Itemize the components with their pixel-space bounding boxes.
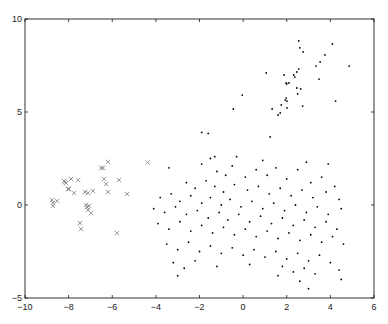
dot-marker: [329, 262, 331, 264]
dot-marker: [319, 254, 321, 256]
dot-marker: [262, 159, 264, 161]
dot-marker: [280, 104, 282, 106]
dot-marker: [186, 213, 188, 215]
dot-marker: [279, 112, 281, 114]
dot-marker: [229, 199, 231, 201]
dot-marker: [334, 186, 336, 188]
dot-marker: [302, 51, 304, 53]
dot-marker: [281, 265, 283, 267]
dot-marker: [240, 206, 242, 208]
dot-marker: [223, 226, 225, 228]
dot-marker: [325, 221, 327, 223]
axes-frame: [25, 19, 374, 298]
dot-marker: [231, 165, 233, 167]
dot-marker: [244, 228, 246, 230]
dot-marker: [286, 100, 288, 102]
dot-marker: [290, 195, 292, 197]
x-tick-label: −4: [151, 302, 161, 312]
dot-marker: [199, 251, 201, 253]
dot-marker: [201, 163, 203, 165]
dot-marker: [283, 74, 285, 76]
dot-marker: [285, 97, 287, 99]
dot-marker: [300, 88, 302, 90]
dot-marker: [216, 265, 218, 267]
dot-marker: [292, 271, 294, 273]
x-tick-label: −8: [63, 302, 73, 312]
dot-marker: [212, 232, 214, 234]
dot-marker: [210, 245, 212, 247]
dot-marker: [179, 221, 181, 223]
dot-marker: [190, 230, 192, 232]
dot-marker: [327, 213, 329, 215]
dot-marker: [277, 238, 279, 240]
x-tick-label: −10: [17, 302, 32, 312]
dot-marker: [225, 174, 227, 176]
dot-marker: [298, 68, 300, 70]
dot-marker: [214, 156, 216, 158]
dot-marker: [214, 186, 216, 188]
dot-marker: [271, 108, 273, 110]
dot-marker: [297, 252, 299, 254]
dot-marker: [302, 105, 304, 107]
dot-marker: [194, 260, 196, 262]
x-tick-label: 6: [371, 302, 376, 312]
dot-marker: [314, 226, 316, 228]
dot-marker: [297, 93, 299, 95]
dot-marker: [284, 99, 286, 101]
y-tick-label: 10: [12, 14, 22, 24]
dot-marker: [188, 241, 190, 243]
dot-marker: [275, 167, 277, 169]
dot-marker: [241, 94, 243, 96]
dot-marker: [340, 279, 342, 281]
dot-marker: [338, 199, 340, 201]
dot-marker: [286, 83, 288, 85]
dot-marker: [232, 108, 234, 110]
dot-marker: [210, 158, 212, 160]
dot-marker: [234, 234, 236, 236]
dot-marker: [253, 249, 255, 251]
dot-marker: [288, 232, 290, 234]
dot-marker: [325, 191, 327, 193]
x-tick-label: −6: [107, 302, 117, 312]
dot-marker: [310, 234, 312, 236]
dot-marker: [201, 225, 203, 227]
dot-marker: [319, 61, 321, 63]
dot-marker: [321, 241, 323, 243]
dot-marker: [177, 275, 179, 277]
dot-marker: [324, 54, 326, 56]
dot-marker: [299, 47, 301, 49]
dot-marker: [301, 189, 303, 191]
dot-marker: [238, 213, 240, 215]
dot-marker: [332, 236, 334, 238]
dot-marker: [268, 193, 270, 195]
dot-marker: [234, 184, 236, 186]
dot-marker: [196, 210, 198, 212]
dot-marker: [201, 132, 203, 134]
dot-marker: [266, 174, 268, 176]
dot-marker: [247, 189, 249, 191]
dot-marker: [218, 212, 220, 214]
dot-marker: [331, 43, 333, 45]
dot-marker: [177, 249, 179, 251]
dot-marker: [194, 187, 196, 189]
dot-marker: [205, 180, 207, 182]
y-tick-label: 0: [17, 200, 22, 210]
dot-marker: [172, 262, 174, 264]
dot-marker: [296, 71, 298, 73]
dot-marker: [299, 280, 301, 282]
dot-marker: [244, 176, 246, 178]
dot-marker: [284, 210, 286, 212]
dot-marker: [159, 197, 161, 199]
dot-marker: [257, 186, 259, 188]
dot-marker: [264, 256, 266, 258]
dot-marker: [298, 40, 300, 42]
scatter-plot: −10−8−6−4−20246−50510: [0, 0, 388, 324]
dot-marker: [303, 267, 305, 269]
dot-marker: [260, 215, 262, 217]
dot-marker: [170, 193, 172, 195]
dot-marker: [216, 171, 218, 173]
dot-marker: [231, 247, 233, 249]
dot-marker: [179, 200, 181, 202]
dot-marker: [183, 267, 185, 269]
dot-marker: [297, 169, 299, 171]
